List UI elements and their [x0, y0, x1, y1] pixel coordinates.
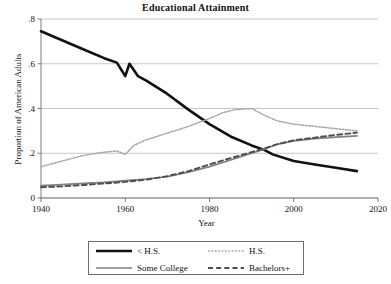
svg-text:1980: 1980: [201, 204, 220, 214]
series-line: [41, 136, 357, 186]
legend-entry-bachelors: Bachelors+: [201, 263, 305, 273]
series-line: [41, 31, 357, 171]
svg-text:.2: .2: [28, 148, 35, 158]
series-line: [41, 133, 357, 188]
chart-legend: < H.S. H.S. Some College Bachelors+: [88, 241, 304, 275]
svg-text:1960: 1960: [116, 204, 135, 214]
svg-text:0: 0: [31, 193, 36, 203]
svg-text:2000: 2000: [285, 204, 304, 214]
legend-entry-some-college: Some College: [89, 263, 201, 273]
data-series-group: [41, 31, 357, 187]
educational-attainment-chart: Educational Attainment Proportion of Ame…: [0, 0, 391, 284]
svg-text:.4: .4: [28, 104, 35, 114]
svg-text:.6: .6: [28, 59, 35, 69]
legend-label-some-college: Some College: [137, 263, 188, 273]
x-axis-title: Year: [41, 218, 372, 228]
legend-label-less-hs: < H.S.: [137, 246, 160, 256]
svg-text:.8: .8: [28, 14, 35, 24]
legend-entry-less-hs: < H.S.: [89, 246, 201, 256]
legend-swatch-hs: [207, 246, 245, 256]
svg-text:2020: 2020: [369, 204, 388, 214]
legend-label-hs: H.S.: [249, 246, 265, 256]
axis-ticks: [38, 19, 379, 202]
legend-label-bachelors: Bachelors+: [249, 263, 290, 273]
legend-swatch-bachelors: [207, 263, 245, 273]
svg-text:1940: 1940: [32, 204, 51, 214]
legend-swatch-some-college: [95, 263, 133, 273]
legend-entry-hs: H.S.: [201, 246, 305, 256]
legend-swatch-less-hs: [95, 246, 133, 256]
gridlines: [41, 19, 378, 198]
